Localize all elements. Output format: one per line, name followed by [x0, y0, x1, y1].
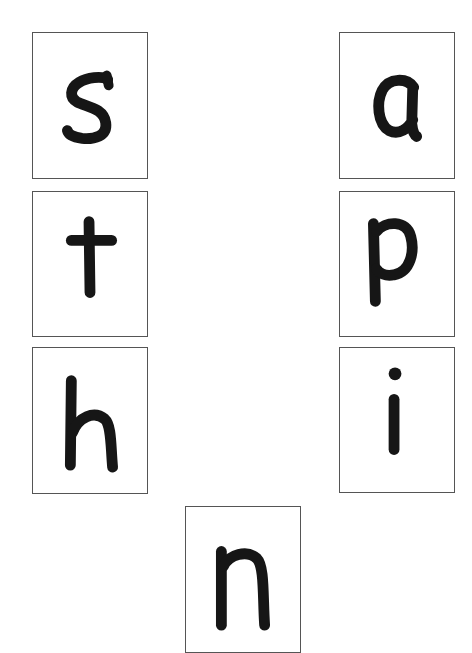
letter-t-glyph: [33, 192, 147, 336]
letter-card-p: p: [339, 191, 455, 337]
letter-card-t: t: [32, 191, 148, 337]
letter-p-glyph: [340, 192, 454, 336]
letter-card-i: i: [339, 347, 455, 493]
letter-h-glyph: [33, 348, 147, 493]
letter-s-glyph: [33, 33, 147, 178]
letter-card-h: h: [32, 347, 148, 494]
letter-n-glyph: [186, 507, 300, 652]
letter-card-n: n: [185, 506, 301, 653]
letter-card-a: a: [339, 32, 455, 179]
letter-a-glyph: [340, 33, 454, 178]
letter-i-glyph: [340, 348, 454, 492]
letter-card-s: s: [32, 32, 148, 179]
